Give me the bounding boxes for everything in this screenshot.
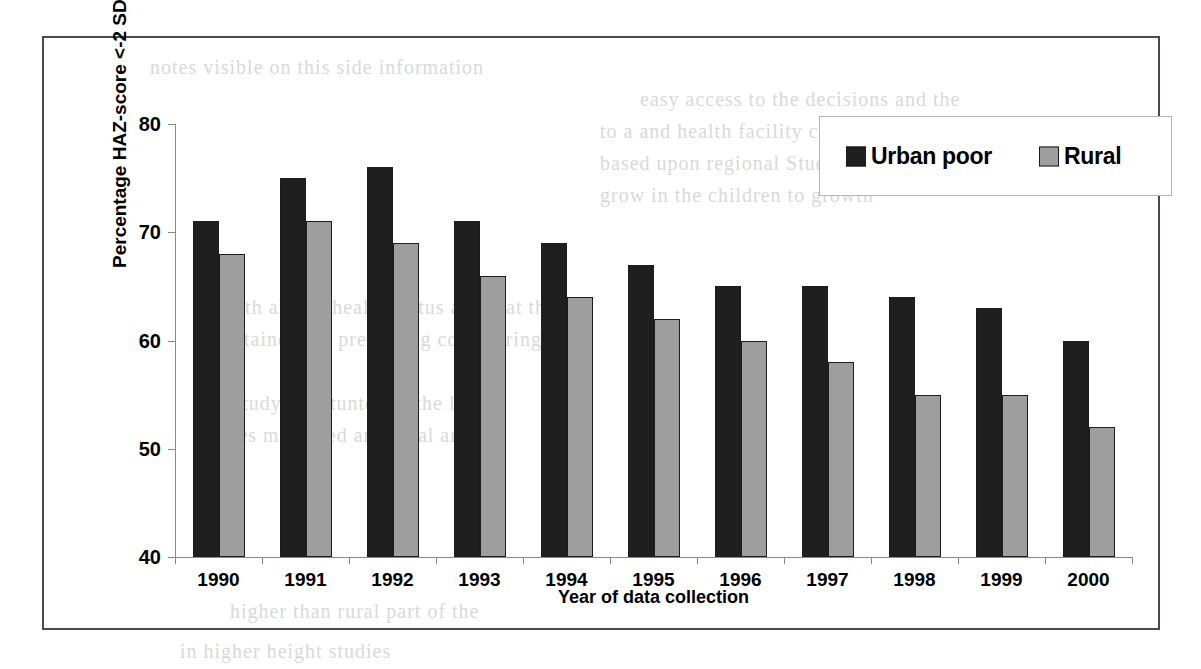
legend-label-urban-poor: Urban poor	[871, 143, 992, 170]
y-tick-mark	[168, 449, 175, 450]
x-tick-mark	[958, 557, 959, 564]
legend-label-rural: Rural	[1064, 143, 1121, 170]
x-tick-mark	[349, 557, 350, 564]
y-tick-label: 60	[139, 329, 161, 352]
bar-urban-poor-1992[interactable]	[367, 167, 393, 557]
bar-rural-1993[interactable]	[480, 276, 506, 557]
bar-group	[175, 124, 262, 557]
x-axis-line	[175, 557, 1132, 558]
bleed-text: in higher height studies	[180, 640, 391, 663]
chart-legend: Urban poor Rural	[819, 116, 1172, 196]
y-tick-mark	[168, 232, 175, 233]
bar-rural-1998[interactable]	[915, 395, 941, 557]
chart-frame: Percentage HAZ-score <-2 SD 4050607080 1…	[42, 36, 1160, 630]
bar-rural-1999[interactable]	[1002, 395, 1028, 557]
bar-urban-poor-1999[interactable]	[976, 308, 1002, 557]
bar-rural-1995[interactable]	[654, 319, 680, 557]
y-tick-label: 80	[139, 113, 161, 136]
bar-urban-poor-1993[interactable]	[454, 221, 480, 557]
y-tick-mark	[168, 557, 175, 558]
bar-urban-poor-1998[interactable]	[889, 297, 915, 557]
y-tick-label: 40	[139, 546, 161, 569]
bar-rural-1997[interactable]	[828, 362, 854, 557]
x-tick-mark	[784, 557, 785, 564]
legend-item-urban-poor[interactable]: Urban poor	[846, 143, 992, 170]
bar-group	[436, 124, 523, 557]
bar-rural-2000[interactable]	[1089, 427, 1115, 557]
x-tick-mark	[1045, 557, 1046, 564]
bar-urban-poor-1997[interactable]	[802, 286, 828, 557]
bar-rural-1992[interactable]	[393, 243, 419, 557]
bar-urban-poor-1991[interactable]	[280, 178, 306, 557]
y-tick-label: 50	[139, 437, 161, 460]
bar-urban-poor-1990[interactable]	[193, 221, 219, 557]
y-tick-label: 70	[139, 221, 161, 244]
bar-group	[610, 124, 697, 557]
dark-square-icon	[846, 146, 866, 166]
legend-item-rural[interactable]: Rural	[1039, 143, 1121, 170]
y-axis-title: Percentage HAZ-score <-2 SD	[109, 0, 131, 268]
bar-rural-1991[interactable]	[306, 221, 332, 557]
x-axis-title: Year of data collection	[175, 587, 1132, 608]
bar-group	[697, 124, 784, 557]
bar-group	[523, 124, 610, 557]
x-tick-mark	[436, 557, 437, 564]
x-tick-mark	[610, 557, 611, 564]
bar-group	[262, 124, 349, 557]
bar-urban-poor-1995[interactable]	[628, 265, 654, 557]
y-tick-mark	[168, 341, 175, 342]
gray-square-icon	[1039, 146, 1059, 166]
x-tick-mark	[1132, 557, 1133, 564]
bar-rural-1990[interactable]	[219, 254, 245, 557]
bar-rural-1994[interactable]	[567, 297, 593, 557]
y-tick-mark	[168, 124, 175, 125]
bar-urban-poor-1996[interactable]	[715, 286, 741, 557]
x-tick-mark	[523, 557, 524, 564]
bar-group	[349, 124, 436, 557]
x-tick-mark	[262, 557, 263, 564]
bar-urban-poor-2000[interactable]	[1063, 341, 1089, 558]
bar-rural-1996[interactable]	[741, 341, 767, 558]
bar-urban-poor-1994[interactable]	[541, 243, 567, 557]
x-tick-mark	[697, 557, 698, 564]
x-tick-mark	[871, 557, 872, 564]
x-tick-mark	[175, 557, 176, 564]
